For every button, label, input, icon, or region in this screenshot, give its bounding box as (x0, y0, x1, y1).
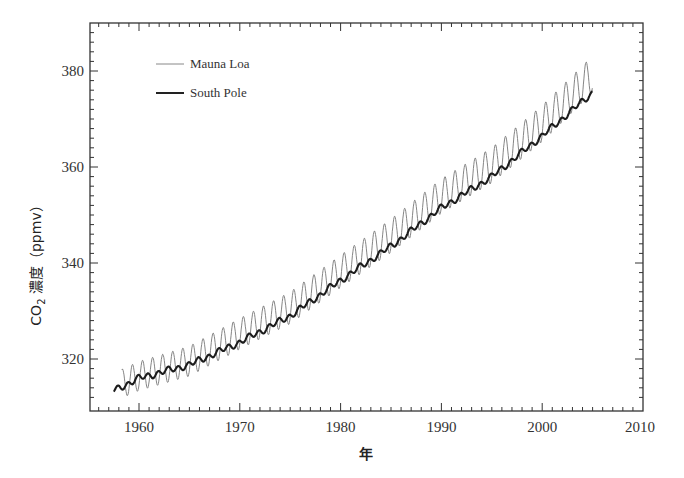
x-tick-label: 2000 (527, 419, 557, 435)
y-tick-label: 360 (62, 159, 85, 175)
y-tick-label: 340 (62, 255, 85, 271)
y-axis-title-prefix: CO (28, 305, 44, 326)
x-tick-label: 1990 (426, 419, 456, 435)
background (0, 0, 684, 478)
x-tick-label: 1980 (326, 419, 356, 435)
legend-label: South Pole (190, 85, 247, 100)
x-tick-label: 1960 (124, 419, 154, 435)
y-tick-label: 380 (62, 63, 85, 79)
x-tick-label: 2010 (625, 419, 655, 435)
co2-line-chart: 196019701980199020002010 320340360380 Ma… (0, 0, 684, 478)
y-tick-label: 320 (62, 351, 85, 367)
y-axis-title-suffix: 濃度（ppmv） (28, 198, 44, 298)
legend-label: Mauna Loa (190, 56, 250, 71)
x-tick-label: 1970 (225, 419, 255, 435)
x-axis-title: 年 (359, 446, 373, 462)
